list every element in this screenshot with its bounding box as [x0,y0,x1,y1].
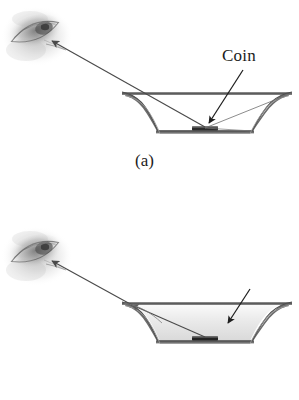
panel-a: Coin (a) [0,0,299,200]
light-ray-straight [52,41,205,127]
panel-b: Water (b) [0,200,299,400]
coin-label: Coin [222,47,256,64]
panel-a-drawing [0,0,299,200]
eye-icon [1,6,73,66]
coin [192,337,218,341]
water [127,303,285,341]
optics-refraction-figure: Coin (a) [0,0,299,400]
eye-icon [1,226,73,286]
panel-a-caption: (a) [135,152,154,169]
panel-b-drawing [0,200,299,400]
